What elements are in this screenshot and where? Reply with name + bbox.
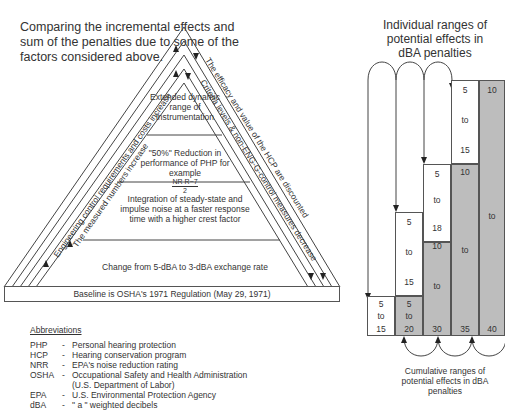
range-box-col3-cumulative: 10 to 30 xyxy=(423,242,451,336)
range-box-col1: 5 to 15 xyxy=(367,296,395,336)
abbr-row: PHP-Personal hearing protection xyxy=(30,340,247,350)
abbr-row: NRR-EPA's noise reduction rating xyxy=(30,360,247,370)
range-box-col3-individual: 5 to 18 xyxy=(423,164,451,242)
abbr-row: OSHA-Occupational Safety and Health Admi… xyxy=(30,370,247,380)
range-box-col5-cumulative: 10 to 40 xyxy=(479,80,505,336)
range-box-col4-individual: 5 to 15 xyxy=(451,80,479,164)
cumulative-ranges-caption: Cumulative ranges of potential effects i… xyxy=(395,366,495,396)
tier-2-label: "50%" Reduction in performance of PHP fo… xyxy=(130,148,240,195)
abbr-row: EPA-U.S. Environmental Protection Agency xyxy=(30,390,247,400)
abbr-row: dBA-" a " weighted decibels xyxy=(30,400,247,410)
tier-1-label: Extended dynamic range of instrumentatio… xyxy=(150,92,220,122)
tier-4-label: Change from 5-dBA to 3-dBA exchange rate xyxy=(90,262,280,272)
abbreviations-heading: Abbreviations xyxy=(30,325,247,335)
range-box-col4-cumulative: 10 to 35 xyxy=(451,164,479,336)
range-box-col2-cumulative: 5 to 20 xyxy=(395,296,423,336)
formula-numerator: NR R−7 xyxy=(172,178,197,187)
abbr-row: (U.S. Department of Labor) xyxy=(30,380,247,390)
nrr-formula: NR R−7 2 xyxy=(172,178,197,195)
baseline-bar: Baseline is OSHA's 1971 Regulation (May … xyxy=(4,286,340,302)
range-box-col2-individual: 5 to 15 xyxy=(395,212,423,296)
tier-2-text: "50%" Reduction in performance of PHP fo… xyxy=(130,148,240,178)
abbr-row: HCP-Hearing conservation program xyxy=(30,350,247,360)
abbreviations: Abbreviations PHP-Personal hearing prote… xyxy=(30,325,247,410)
tier-3-label: Integration of steady-state and impulse … xyxy=(115,194,255,224)
individual-ranges-title: Individual ranges of potential effects i… xyxy=(380,18,490,60)
